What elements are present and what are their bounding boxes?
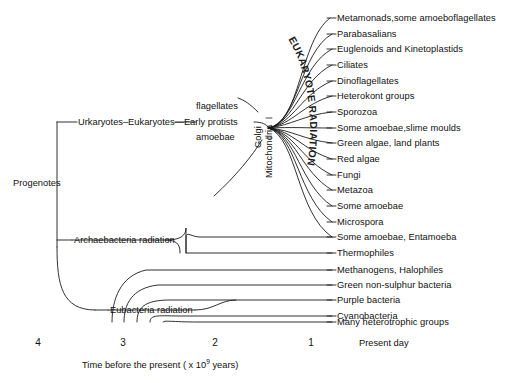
eukaryote-branch-13 <box>269 128 332 206</box>
axis-caption-suffix: years) <box>210 360 238 370</box>
eukaryote-branch-12 <box>269 128 332 190</box>
axis-tick-2: 2 <box>200 337 230 348</box>
eukaryote-branch-1 <box>269 18 330 128</box>
flagellates-label: flagellates <box>196 101 238 111</box>
taxon-tick-marks <box>327 18 336 322</box>
eubacteria-outer-curve <box>195 300 236 310</box>
taxon-label: Green algae, land plants <box>337 138 440 148</box>
taxon-label: Some amoebae,slime moulds <box>337 123 461 133</box>
axis-tick-4: 4 <box>23 337 53 348</box>
archaebacteria-branch-1 <box>166 228 332 253</box>
taxon-label: Some amoebae <box>337 201 403 211</box>
taxon-label: Parabasalians <box>337 29 397 39</box>
present-day-label: Present day <box>359 338 409 348</box>
taxon-label: Ciliates <box>337 60 368 70</box>
taxon-label: Microspora <box>337 217 383 227</box>
amoebae-label: amoebae <box>196 132 235 142</box>
axis-tick-3: 3 <box>108 337 138 348</box>
taxon-label: Red algae <box>337 154 380 164</box>
axis-tick-1: 1 <box>296 337 326 348</box>
eubacteria-branch-4 <box>150 316 332 322</box>
taxon-label: Dinoflagellates <box>337 76 399 86</box>
taxon-label: Methanogens, Halophiles <box>337 265 443 275</box>
archaebacteria-up-line <box>186 234 332 253</box>
branch-root-stub <box>57 247 95 310</box>
golgi-label: Golgi <box>253 126 263 148</box>
branch-flagellates-up <box>238 98 258 112</box>
eukaryote-branch-15 <box>269 128 332 237</box>
taxon-label: Fungi <box>337 170 361 180</box>
eubacteria-branch-5 <box>163 321 332 322</box>
eukaryote-branch-4 <box>269 65 332 128</box>
archaebacteria-radiation-label: Archaebacteria radiation <box>74 235 175 245</box>
axis-caption-prefix: Time before the present ( x 10 <box>82 360 206 370</box>
taxon-label: Thermophiles <box>337 248 394 258</box>
root-label: Progenotes <box>13 178 61 188</box>
taxon-label: Euglenoids and Kinetoplastids <box>337 44 463 54</box>
taxon-label: Sporozoa <box>337 107 377 117</box>
taxon-label: Many heterotrophic groups <box>337 317 449 327</box>
taxon-label: Some amoebae, Entamoeba <box>337 232 457 242</box>
taxon-label: Metazoa <box>337 185 373 195</box>
diagram-canvas: EUKARYOTE RADIATION Metamonads,some amoe… <box>0 0 516 383</box>
eubacteria-radiation-label: Eubacteria radiation <box>110 305 193 315</box>
axis-caption: Time before the present ( x 109 years) <box>82 358 238 370</box>
lineage-chain-label: Urkaryotes–Eukaryotes—Early protists <box>78 117 238 127</box>
taxon-label: Purple bacteria <box>337 295 400 305</box>
taxon-label: Heterokont groups <box>337 91 414 101</box>
branch-amoebae-down <box>214 140 262 196</box>
taxon-label: Metamonads,some amoeboflagellates <box>337 13 496 23</box>
mitochondria-label: Mitochondria <box>264 125 274 178</box>
taxon-label: Green non-sulphur bacteria <box>337 280 451 290</box>
eukaryote-radiation-label: EUKARYOTE RADIATION <box>286 35 319 167</box>
